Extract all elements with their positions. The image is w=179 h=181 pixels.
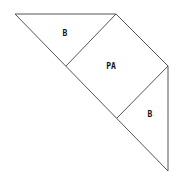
hypotenuse [15,14,168,171]
divider-top [66,14,116,66]
tangram-diagram: B PA B [0,0,179,181]
region-label-top-triangle: B [63,29,68,38]
region-label-center-square: PA [106,62,116,71]
region-label-right-triangle: B [148,110,153,119]
divider-bottom [117,66,168,118]
